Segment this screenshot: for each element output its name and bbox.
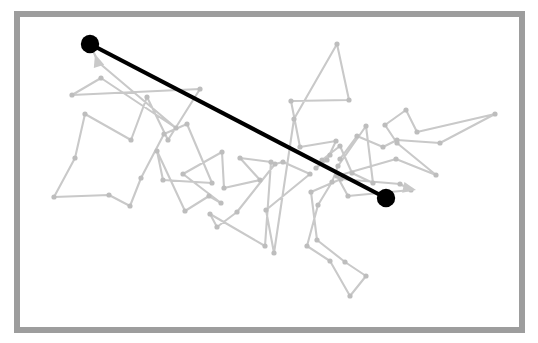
walk-vertex-dot [334, 41, 339, 46]
walk-vertex-dot [307, 171, 312, 176]
walk-vertex-dot [206, 193, 211, 198]
walk-vertex-dot [182, 208, 187, 213]
start-point-marker [81, 35, 99, 53]
walk-vertex-dot [315, 202, 320, 207]
random-walk-figure [0, 0, 538, 343]
walk-vertex-dot [333, 138, 338, 143]
walk-vertex-dot [380, 144, 385, 149]
walk-vertex-dot [433, 172, 438, 177]
walk-vertex-dot [403, 107, 408, 112]
walk-vertex-dot [437, 140, 442, 145]
walk-vertex-dot [337, 156, 342, 161]
walk-vertex-dot [207, 211, 212, 216]
walk-vertex-dot [160, 177, 165, 182]
walk-vertex-dot [271, 250, 276, 255]
walk-vertex-dot [314, 237, 319, 242]
walk-vertex-dot [214, 224, 219, 229]
walk-vertex-dot [382, 122, 387, 127]
walk-vertex-dot [180, 171, 185, 176]
walk-vertex-dot [324, 157, 329, 162]
walk-vertex-dot [154, 148, 159, 153]
walk-vertex-dot [280, 159, 285, 164]
walk-vertex-dot [492, 111, 497, 116]
walk-vertex-dot [209, 180, 214, 185]
walk-vertex-dot [363, 273, 368, 278]
walk-vertex-dot [363, 123, 368, 128]
figure-root [0, 0, 538, 343]
walk-vertex-dot [197, 86, 202, 91]
walk-vertex-dot [329, 179, 334, 184]
walk-vertex-dot [262, 243, 267, 248]
walk-vertex-dot [173, 125, 178, 130]
walk-vertex-dot [234, 209, 239, 214]
walk-vertex-dot [138, 175, 143, 180]
walk-vertex-dot [308, 189, 313, 194]
walk-vertex-dot [335, 163, 340, 168]
walk-vertex-dot [313, 165, 318, 170]
walk-vertex-dot [161, 131, 166, 136]
walk-vertex-dot [128, 137, 133, 142]
walk-vertex-dot [144, 94, 149, 99]
walk-vertex-dot [263, 207, 268, 212]
walk-vertex-dot [414, 129, 419, 134]
walk-vertex-dot [346, 97, 351, 102]
walk-vertex-dot [165, 137, 170, 142]
walk-vertex-dot [342, 259, 347, 264]
walk-vertex-dot [98, 75, 103, 80]
walk-vertex-dot [347, 293, 352, 298]
walk-vertex-dot [397, 181, 402, 186]
walk-vertex-dot [394, 137, 399, 142]
walk-vertex-dot [82, 111, 87, 116]
walk-vertex-dot [327, 152, 332, 157]
end-point-marker [377, 189, 395, 207]
walk-vertex-dot [288, 98, 293, 103]
walk-vertex-dot [219, 149, 224, 154]
walk-vertex-dot [393, 156, 398, 161]
walk-vertex-dot [354, 133, 359, 138]
walk-vertex-dot [69, 92, 74, 97]
walk-vertex-dot [237, 155, 242, 160]
walk-vertex-dot [257, 177, 262, 182]
walk-vertex-dot [370, 180, 375, 185]
walk-vertex-dot [184, 121, 189, 126]
walk-vertex-dot [127, 203, 132, 208]
walk-vertex-dot [337, 143, 342, 148]
walk-vertex-dot [221, 185, 226, 190]
walk-vertex-dot [72, 155, 77, 160]
walk-vertex-dot [272, 161, 277, 166]
walk-vertex-dot [297, 144, 302, 149]
walk-vertex-dot [345, 193, 350, 198]
walk-vertex-dot [218, 200, 223, 205]
walk-vertex-dot [51, 194, 56, 199]
walk-vertex-dot [349, 170, 354, 175]
walk-vertex-dot [106, 192, 111, 197]
walk-vertex-dot [304, 243, 309, 248]
walk-vertex-dot [327, 258, 332, 263]
walk-vertex-dot [291, 116, 296, 121]
